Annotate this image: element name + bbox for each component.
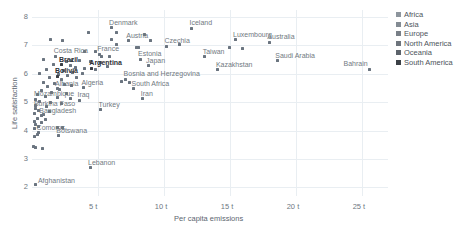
gridline-horizontal [32,45,388,46]
point-label: Japan [146,57,165,64]
legend-item[interactable]: Asia [396,20,453,29]
legend-label: Africa [404,10,423,19]
data-point [45,68,48,71]
gridline-vertical [230,10,231,196]
point-label: Brazil [59,56,78,63]
data-point [203,55,206,58]
legend-item[interactable]: North America [396,39,453,48]
legend-swatch-icon [396,41,401,46]
gridline-vertical [362,10,363,196]
data-point [54,55,57,58]
data-point [66,74,69,77]
data-point [234,38,237,41]
data-point [100,55,103,58]
data-point [98,53,101,56]
data-point [124,78,127,81]
legend-swatch-icon [396,50,401,55]
point-label: Luxembourg [233,31,272,38]
data-point [89,166,92,169]
data-point [276,59,279,62]
legend-label: Asia [404,20,419,29]
data-point [127,39,130,42]
data-point [61,39,64,42]
data-point [57,134,60,137]
data-point [110,38,113,41]
data-point [33,135,36,138]
data-point [228,46,231,49]
legend-item[interactable]: Africa [396,10,453,19]
x-tick-label: 20 t [287,202,300,211]
x-tick-label: 15 t [221,202,234,211]
data-point [90,67,93,70]
legend-item[interactable]: Oceania [396,48,453,57]
data-point [132,87,135,90]
data-point [52,63,55,66]
gridline-horizontal [32,187,388,188]
legend-swatch-icon [396,22,401,27]
point-label: Bolivia [55,67,78,74]
y-tick-label: 7 [18,40,28,49]
point-label: Turkey [99,101,120,108]
x-axis-title: Per capita emissions [174,214,243,223]
data-point [60,63,63,66]
point-label: Iceland [190,19,213,26]
legend-item[interactable]: South America [396,58,453,67]
data-point [87,31,90,34]
plot-area [32,10,388,196]
point-label: Albania [55,80,78,87]
data-point [36,117,39,120]
legend-label: South America [404,58,453,67]
gridline-horizontal [32,159,388,160]
data-point [120,80,123,83]
data-point [110,26,113,29]
point-label: Bahrain [344,60,368,67]
point-label: Afghanistan [38,177,75,184]
point-label: Lebanon [88,159,115,166]
legend-swatch-icon [396,60,401,65]
legend-label: Oceania [404,48,432,57]
point-label: Iran [141,90,153,97]
point-label: Algeria [81,79,103,86]
point-label: Saudi Arabia [275,52,315,59]
data-point [139,58,142,61]
data-point [49,38,52,41]
point-label: Kazakhstan [216,61,253,68]
x-tick-label: 25 t [353,202,366,211]
point-label: Burkina Faso [34,100,75,107]
legend-swatch-icon [396,31,401,36]
y-tick-label: 5 [18,97,28,106]
point-label: Iraq [77,91,89,98]
point-label: Bangladesh [39,107,76,114]
data-point [83,67,86,70]
x-tick-label: 10 t [155,202,168,211]
data-point [42,81,45,84]
legend-swatch-icon [396,12,401,17]
legend: AfricaAsiaEuropeNorth AmericaOceaniaSout… [396,10,453,67]
gridline-horizontal [32,17,388,18]
point-label: South Africa [132,80,170,87]
legend-item[interactable]: Europe [396,29,453,38]
y-tick-label: 6 [18,69,28,78]
point-label: Denmark [109,19,137,26]
legend-label: North America [404,39,452,48]
data-point [137,46,140,49]
data-point [268,41,271,44]
data-point [82,86,85,89]
point-label: Taiwan [203,48,225,55]
data-point [190,27,193,30]
data-point [368,68,371,71]
data-point [41,147,44,150]
point-label: Czechia [164,37,189,44]
data-point [40,114,43,117]
y-axis-title: Life satisfaction [10,77,19,129]
y-tick-label: 3 [18,154,28,163]
gridline-horizontal [32,102,388,103]
scatter-chart: 5 t10 t15 t20 t25 t 2345678 Per capita e… [0,0,462,235]
data-point [78,59,81,62]
data-point [78,99,81,102]
y-tick-label: 8 [18,12,28,21]
data-point [44,118,47,121]
point-label: Bosnia and Herzegovina [124,70,200,77]
data-point [115,31,118,34]
point-label: Austria [126,32,148,39]
